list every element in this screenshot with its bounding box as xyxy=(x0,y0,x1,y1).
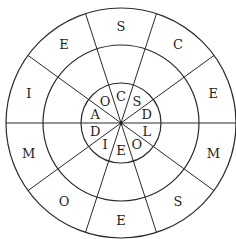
outer-ring-letter: O xyxy=(59,194,70,209)
outer-ring-letter: I xyxy=(26,86,31,101)
inner-ring-letter: A xyxy=(90,107,101,122)
spoke-line xyxy=(121,123,214,191)
inner-ring-letter: E xyxy=(116,143,126,158)
outer-ring-letter: M xyxy=(22,146,35,161)
spoke-line xyxy=(28,55,121,123)
inner-ring-letter: D xyxy=(141,107,151,122)
inner-ring-letter: I xyxy=(103,137,108,152)
outer-ring-letter: S xyxy=(117,19,126,34)
outer-ring-letter: M xyxy=(207,146,220,161)
outer-ring-letter: E xyxy=(116,213,126,228)
spoke-line xyxy=(121,55,214,123)
spoke-line xyxy=(28,123,121,191)
outer-ring-letter: C xyxy=(173,37,183,52)
letter-wheel-diagram: SCEMSEOMIE CSDLOEIDAO xyxy=(0,0,236,239)
inner-ring-letter: D xyxy=(90,124,100,139)
inner-ring-letter: O xyxy=(100,94,111,109)
outer-ring-letter: E xyxy=(59,37,69,52)
center-hub xyxy=(120,122,123,125)
inner-ring-letter: C xyxy=(116,89,126,104)
outer-ring-letter: S xyxy=(174,194,183,209)
outer-ring-letter: E xyxy=(209,86,219,101)
inner-ring-letter: S xyxy=(132,94,141,109)
inner-ring-letter: O xyxy=(132,137,143,152)
inner-ring-letter: L xyxy=(142,124,151,139)
